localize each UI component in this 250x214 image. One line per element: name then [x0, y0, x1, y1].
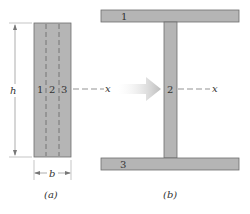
strip-label-2: 2 [49, 84, 55, 95]
b-arrow-right-icon [65, 171, 71, 175]
figure-a: 1 2 3 h b x (a) [8, 23, 111, 200]
h-arrow-down-icon [13, 150, 17, 156]
height-label: h [10, 85, 16, 96]
strip-label-1: 1 [37, 84, 43, 95]
strip-label-3: 3 [61, 84, 67, 95]
beam-section-diagram: 1 2 3 h b x (a) 1 2 3 x (b) [0, 0, 250, 214]
transform-arrow-icon [118, 77, 161, 101]
b-arrow-left-icon [34, 171, 40, 175]
width-label: b [49, 168, 55, 179]
top-flange-label: 1 [121, 11, 127, 22]
h-arrow-up-icon [13, 24, 17, 30]
x-axis-label-b: x [212, 83, 218, 94]
caption-b: (b) [163, 189, 177, 200]
web-label: 2 [167, 84, 173, 95]
figure-b: 1 2 3 x (b) [101, 10, 239, 200]
bottom-flange-label: 3 [120, 159, 126, 170]
x-axis-label-a: x [105, 83, 111, 94]
caption-a: (a) [44, 189, 58, 200]
